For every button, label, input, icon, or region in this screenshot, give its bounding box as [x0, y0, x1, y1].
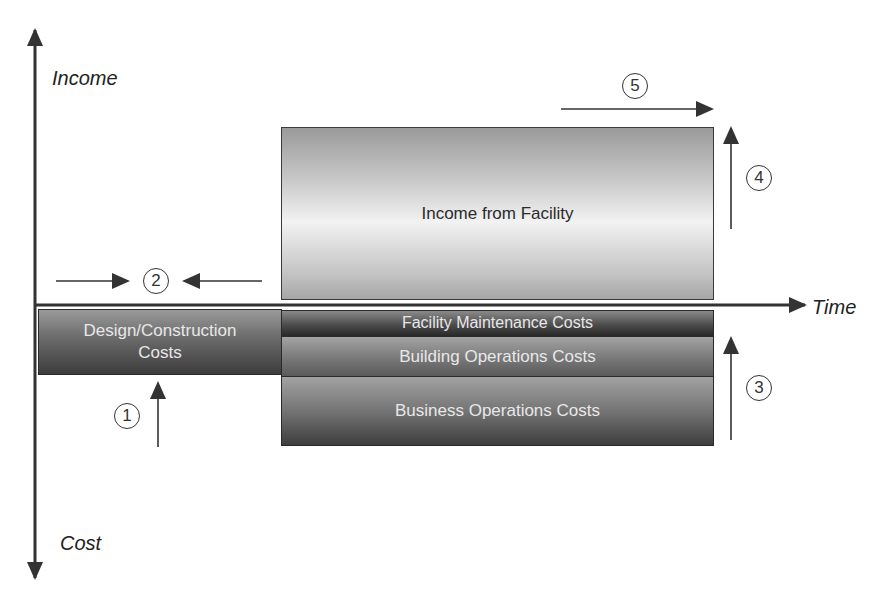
marker-3-label: 3: [754, 378, 763, 398]
income-from-facility-box: Income from Facility: [281, 127, 714, 300]
design-construction-label-line1: Design/Construction: [83, 320, 236, 342]
marker-1-label: 1: [122, 406, 131, 426]
marker-4-circle: 4: [746, 165, 772, 191]
business-operations-costs-box: Business Operations Costs: [281, 376, 714, 446]
income-axis-label: Income: [52, 67, 118, 90]
marker-4-label: 4: [754, 168, 763, 188]
business-operations-label: Business Operations Costs: [395, 401, 600, 421]
design-construction-costs-box: Design/Construction Costs: [38, 309, 282, 375]
cost-axis-label: Cost: [60, 532, 101, 555]
income-from-facility-label: Income from Facility: [421, 204, 573, 224]
design-construction-label-line2: Costs: [138, 342, 181, 364]
diagram-arrows: [0, 0, 887, 607]
marker-3-circle: 3: [746, 375, 772, 401]
marker-1-circle: 1: [114, 403, 140, 429]
building-operations-costs-box: Building Operations Costs: [281, 336, 714, 377]
marker-5-label: 5: [630, 76, 639, 96]
facility-maintenance-label: Facility Maintenance Costs: [402, 314, 593, 332]
time-axis-label: Time: [812, 296, 856, 319]
facility-maintenance-costs-box: Facility Maintenance Costs: [281, 310, 714, 336]
marker-2-circle: 2: [143, 268, 169, 294]
marker-5-circle: 5: [622, 73, 648, 99]
building-operations-label: Building Operations Costs: [399, 347, 596, 367]
marker-2-label: 2: [151, 271, 160, 291]
